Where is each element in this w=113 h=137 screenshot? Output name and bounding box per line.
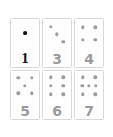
card-numeral: 5	[11, 104, 39, 118]
card-numeral: 6	[43, 104, 71, 118]
pip-dot-icon	[49, 84, 52, 87]
pip-dot-icon	[17, 91, 20, 94]
number-card-1[interactable]: 1	[10, 18, 40, 68]
pip-dot-icon	[81, 93, 84, 96]
pip-dot-icon	[93, 38, 96, 41]
pip-dot-icon	[49, 25, 52, 28]
pip-area	[11, 21, 39, 49]
pip-dot-icon	[30, 76, 33, 79]
pip-area	[75, 73, 103, 101]
pip-dot-icon	[55, 32, 58, 35]
pip-dot-icon	[23, 84, 26, 87]
pip-area	[43, 21, 71, 49]
pip-dot-icon	[93, 76, 96, 79]
number-card-6[interactable]: 6	[42, 70, 72, 120]
pip-dot-icon	[81, 25, 84, 28]
pip-area	[43, 73, 71, 101]
pip-dot-icon	[93, 25, 96, 28]
number-card-4[interactable]: 4	[74, 18, 104, 68]
pip-dot-icon	[93, 93, 96, 96]
pip-dot-icon	[17, 76, 20, 79]
pip-dot-icon	[23, 31, 27, 35]
pip-dot-icon	[61, 40, 64, 43]
pip-dot-icon	[81, 76, 84, 79]
number-card-3[interactable]: 3	[42, 18, 72, 68]
card-numeral: 4	[75, 52, 103, 66]
pip-dot-icon	[30, 91, 33, 94]
pip-dot-icon	[49, 93, 52, 96]
card-numeral: 3	[43, 52, 71, 66]
pip-area	[11, 73, 39, 101]
pip-dot-icon	[61, 93, 64, 96]
number-card-7[interactable]: 7	[74, 70, 104, 120]
pip-dot-icon	[81, 38, 84, 41]
pip-dot-icon	[61, 84, 64, 87]
card-grid: 134567	[10, 18, 104, 120]
pip-dot-icon	[81, 84, 84, 87]
card-numeral: 1	[11, 51, 39, 66]
pip-dot-icon	[87, 84, 90, 87]
pip-dot-icon	[61, 76, 64, 79]
card-numeral: 7	[75, 104, 103, 118]
number-card-5[interactable]: 5	[10, 70, 40, 120]
pip-area	[75, 21, 103, 49]
pip-dot-icon	[49, 76, 52, 79]
pip-dot-icon	[94, 84, 97, 87]
